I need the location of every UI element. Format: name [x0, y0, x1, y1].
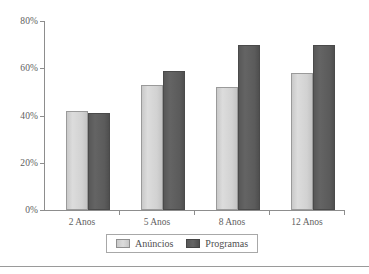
bar-anuncios[interactable]: [141, 85, 163, 210]
bar-anuncios[interactable]: [66, 111, 88, 210]
bar-group: [291, 21, 335, 210]
y-axis-line: [44, 21, 45, 211]
bar-anuncios[interactable]: [291, 73, 313, 210]
plot-area: 0% 20% 40% 60% 80%: [44, 21, 345, 211]
bar-anuncios[interactable]: [216, 87, 238, 210]
bar-programas[interactable]: [163, 71, 185, 210]
x-axis-tick: [119, 211, 120, 215]
bar-programas[interactable]: [313, 45, 335, 210]
y-axis-tick-label: 80%: [20, 16, 38, 26]
bar-programas[interactable]: [238, 45, 260, 210]
bar-group: [66, 21, 110, 210]
y-axis-tick-label: 20%: [20, 158, 38, 168]
x-axis-category-label: 12 Anos: [262, 217, 352, 227]
bar-group: [216, 21, 260, 210]
light-gray-swatch-icon: [116, 239, 130, 248]
bar-programas[interactable]: [88, 113, 110, 210]
y-axis-tick-label: 40%: [20, 111, 38, 121]
legend-label: Programas: [205, 238, 248, 249]
chart-legend: Anúncios Programas: [106, 234, 258, 253]
x-axis-tick: [194, 211, 195, 215]
x-axis-tick: [344, 211, 345, 215]
dark-gray-swatch-icon: [186, 239, 200, 248]
legend-item-programas[interactable]: Programas: [186, 238, 248, 249]
x-axis-tick: [269, 211, 270, 215]
legend-label: Anúncios: [135, 238, 173, 249]
bar-group: [141, 21, 185, 210]
bottom-divider: [0, 266, 369, 267]
bar-chart: 0% 20% 40% 60% 80%: [0, 0, 369, 274]
y-axis-tick-label: 0%: [25, 205, 38, 215]
y-axis-tick-label: 60%: [20, 63, 38, 73]
legend-item-anuncios[interactable]: Anúncios: [116, 238, 173, 249]
